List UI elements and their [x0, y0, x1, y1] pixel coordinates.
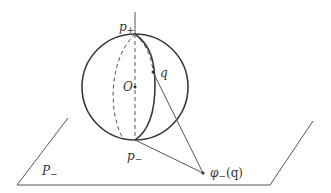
front-meridian [135, 34, 155, 140]
label-q: q [160, 66, 168, 80]
plane-p-minus [17, 118, 313, 185]
point-origin [134, 86, 137, 89]
label-origin: O [123, 80, 133, 94]
plane-right-edge [270, 121, 313, 185]
stereographic-projection-diagram: p+ O q p− P− φ−(q) [0, 0, 331, 193]
point-phi-q [201, 171, 204, 174]
projection-line-q [153, 72, 203, 173]
hidden-meridians [113, 34, 153, 140]
label-p-plus: p+ [119, 20, 134, 35]
point-q [152, 71, 155, 74]
label-plane: P− [41, 164, 58, 179]
label-phi-q: φ−(q) [210, 166, 243, 181]
label-p-minus: p− [127, 149, 142, 164]
projection-line-p-minus [135, 140, 203, 173]
